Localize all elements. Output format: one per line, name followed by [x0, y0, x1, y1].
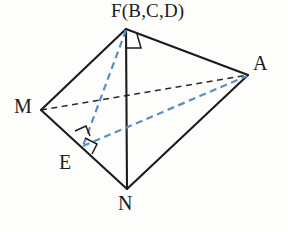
vertex-label-N: N: [118, 193, 132, 213]
edge-F-N: [126, 29, 127, 189]
vertex-label-A: A: [253, 53, 267, 73]
edge-M-F: [41, 29, 126, 110]
vertex-label-F: F(B,C,D): [111, 1, 184, 20]
vertex-label-M: M: [14, 96, 32, 116]
right-angle-at-F-mark: [127, 34, 141, 48]
edge-M-N: [41, 110, 127, 189]
vertex-label-E: E: [59, 152, 71, 172]
edge-F-E-construction: [83, 30, 126, 146]
edge-F-A: [126, 29, 248, 75]
edge-E-A-construction: [83, 76, 247, 146]
right-angle-at-E-upper-mark: [75, 126, 90, 136]
geometry-figure: F(B,C,D) A M E N: [0, 0, 288, 232]
figure-canvas: [0, 0, 288, 232]
